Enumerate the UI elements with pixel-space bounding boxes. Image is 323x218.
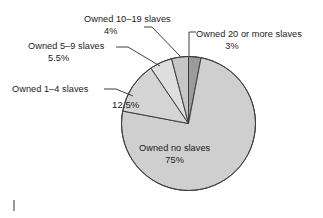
pie-label-owned-no-slaves-value: 75% [139, 155, 210, 167]
pie-label-owned-20-or-more-text: Owned 20 or more slaves [196, 29, 302, 39]
pie-label-owned-10-19-value: 4% [84, 26, 171, 38]
pie-label-owned-1-4-value: 12.5% [112, 99, 139, 111]
pie-label-owned-5-9-text: Owned 5–9 slaves [28, 41, 104, 51]
pie-label-owned-20-or-more: Owned 20 or more slaves 3% [196, 29, 302, 52]
pie-label-owned-20-or-more-value: 3% [196, 41, 302, 53]
pie-label-owned-5-9: Owned 5–9 slaves 5.5% [28, 41, 104, 64]
pie-label-owned-no-slaves-text: Owned no slaves [139, 143, 210, 153]
leader-line-owned-20-or-more [189, 32, 196, 56]
pie-chart-figure: Owned 10–19 slaves 4% Owned 20 or more s… [0, 0, 323, 218]
pie-label-owned-10-19: Owned 10–19 slaves 4% [84, 14, 171, 37]
pie-label-owned-10-19-text: Owned 10–19 slaves [84, 14, 171, 24]
pie-label-owned-1-4-text: Owned 1–4 slaves [12, 84, 88, 94]
crop-mark [13, 200, 15, 211]
pie-label-owned-5-9-value: 5.5% [28, 53, 104, 65]
pie-label-owned-1-4: Owned 1–4 slaves [12, 84, 88, 96]
pie-label-owned-no-slaves: Owned no slaves 75% [139, 143, 210, 166]
leader-line-owned-5-9 [116, 47, 160, 66]
